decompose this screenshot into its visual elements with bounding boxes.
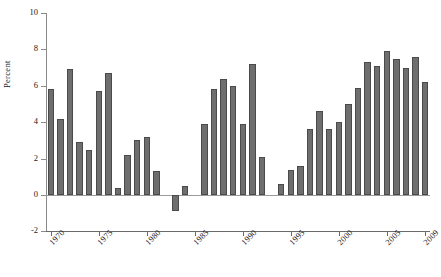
bar bbox=[134, 140, 140, 195]
bar bbox=[384, 51, 390, 195]
bar bbox=[172, 195, 178, 211]
bar bbox=[105, 73, 111, 195]
bar bbox=[86, 150, 92, 196]
bar bbox=[67, 69, 73, 195]
y-tick-label-wrap: 4 bbox=[12, 117, 38, 127]
bars-group bbox=[46, 13, 430, 231]
bar bbox=[374, 66, 380, 195]
bar bbox=[259, 157, 265, 195]
bar bbox=[278, 184, 284, 195]
bar bbox=[316, 111, 322, 195]
y-tick-label: 8 bbox=[14, 44, 38, 53]
y-tick-label: 4 bbox=[14, 117, 38, 126]
bar bbox=[249, 64, 255, 195]
bar bbox=[355, 88, 361, 195]
bar bbox=[297, 166, 303, 195]
bar bbox=[326, 129, 332, 195]
bar bbox=[240, 124, 246, 195]
bar bbox=[124, 155, 130, 195]
plot-area bbox=[46, 13, 430, 231]
y-tick-label: -2 bbox=[14, 226, 38, 235]
y-tick-label-wrap: -2 bbox=[12, 226, 38, 236]
y-tick-mark bbox=[41, 231, 46, 232]
bar bbox=[412, 57, 418, 195]
bar bbox=[115, 188, 121, 195]
y-tick-label: 10 bbox=[14, 8, 38, 17]
bar bbox=[57, 119, 63, 195]
bar bbox=[201, 124, 207, 195]
bar bbox=[307, 129, 313, 195]
bar bbox=[48, 89, 54, 195]
bar bbox=[230, 86, 236, 195]
bar bbox=[403, 68, 409, 195]
bar bbox=[220, 79, 226, 195]
bar bbox=[288, 170, 294, 195]
bar bbox=[364, 62, 370, 195]
y-tick-label: 6 bbox=[14, 81, 38, 90]
bar bbox=[96, 91, 102, 195]
bar bbox=[393, 59, 399, 196]
y-tick-label-wrap: 6 bbox=[12, 81, 38, 91]
y-tick-label: 2 bbox=[14, 154, 38, 163]
bar bbox=[422, 82, 428, 195]
bar bbox=[345, 104, 351, 195]
bar bbox=[76, 142, 82, 195]
y-tick-label-wrap: 0 bbox=[12, 190, 38, 200]
bar bbox=[336, 122, 342, 195]
bar bbox=[211, 89, 217, 195]
y-tick-label-wrap: 8 bbox=[12, 44, 38, 54]
bar bbox=[144, 137, 150, 195]
y-tick-label-wrap: 10 bbox=[12, 8, 38, 18]
bar bbox=[153, 171, 159, 195]
y-tick-label-wrap: 2 bbox=[12, 154, 38, 164]
y-axis-label: Percent bbox=[2, 60, 12, 88]
y-tick-label: 0 bbox=[14, 190, 38, 199]
bar bbox=[182, 186, 188, 195]
